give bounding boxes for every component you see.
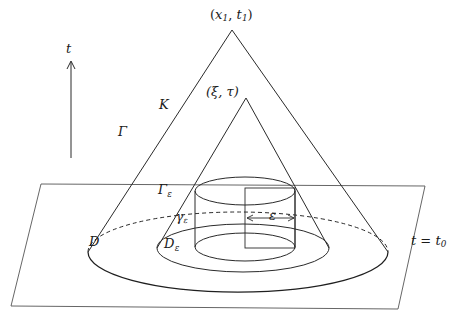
label-cone-interior-K: K bbox=[159, 98, 169, 111]
label-time-plane: t = t0 bbox=[411, 234, 446, 249]
label-cylinder-circle-gamma-epsilon: γε bbox=[176, 211, 188, 225]
label-time-axis: t bbox=[66, 42, 71, 55]
label-epsilon-measure: ε bbox=[269, 209, 276, 222]
disk-D-back-arc bbox=[88, 212, 388, 252]
figure-canvas: (x1, t1) (ξ, τ) K Γ t Γε γε D Dε ε t = t… bbox=[0, 0, 460, 320]
disk-D-epsilon-ellipse bbox=[157, 224, 329, 272]
outer-cone-right-edge bbox=[232, 30, 388, 252]
label-apex-inner: (ξ, τ) bbox=[206, 85, 239, 98]
label-disk-D: D bbox=[89, 235, 99, 248]
time-axis-arrow bbox=[67, 61, 75, 158]
label-disk-D-epsilon: Dε bbox=[164, 237, 179, 252]
label-cone-lateral-gamma: Γ bbox=[118, 125, 127, 138]
inner-cone-left-edge bbox=[157, 98, 246, 248]
outer-cone-left-edge bbox=[88, 30, 232, 252]
label-apex-outer: (x1, t1) bbox=[210, 8, 253, 23]
label-cylinder-lateral-gamma-epsilon: Γε bbox=[158, 183, 172, 198]
inner-cone-right-edge bbox=[246, 98, 329, 248]
